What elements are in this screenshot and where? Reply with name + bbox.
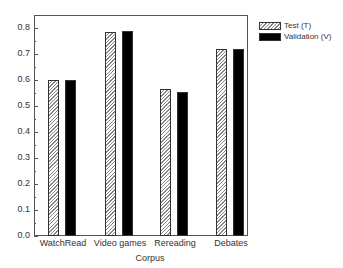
bar-validation — [122, 31, 133, 236]
y-tick — [34, 28, 38, 29]
y-tick-label: 0.0 — [0, 230, 30, 240]
legend-swatch-solid — [259, 33, 281, 41]
legend-label: Validation (V) — [284, 32, 331, 41]
legend-item-validation: Validation (V) — [259, 31, 331, 42]
y-tick — [34, 132, 38, 133]
y-tick-label: 0.4 — [0, 126, 30, 136]
y-tick-label: 0.2 — [0, 178, 30, 188]
y-minor-tick — [34, 119, 36, 120]
y-tick-label: 0.5 — [0, 100, 30, 110]
x-tick-label: Debates — [196, 238, 266, 248]
y-minor-tick — [34, 93, 36, 94]
bar-test — [105, 32, 116, 236]
y-minor-tick — [34, 197, 36, 198]
y-tick — [34, 80, 38, 81]
y-tick — [34, 106, 38, 107]
bar-test — [48, 80, 59, 236]
bar-validation — [233, 49, 244, 236]
y-tick — [34, 236, 38, 237]
y-tick-label: 0.7 — [0, 48, 30, 58]
y-tick-label: 0.8 — [0, 22, 30, 32]
bar-test — [216, 49, 227, 236]
y-minor-tick — [34, 15, 36, 16]
legend-item-test: Test (T) — [259, 20, 331, 31]
y-tick-label: 0.6 — [0, 74, 30, 84]
legend-label: Test (T) — [284, 21, 311, 30]
y-tick — [34, 210, 38, 211]
legend-swatch-hatched — [259, 22, 281, 30]
y-minor-tick — [34, 223, 36, 224]
y-tick-label: 0.1 — [0, 204, 30, 214]
y-minor-tick — [34, 171, 36, 172]
bar-test — [160, 89, 171, 236]
y-tick — [34, 184, 38, 185]
bar-validation — [65, 80, 76, 236]
bar-validation — [177, 92, 188, 236]
y-minor-tick — [34, 145, 36, 146]
legend: Test (T) Validation (V) — [259, 20, 331, 42]
y-tick-label: 0.3 — [0, 152, 30, 162]
x-axis-title: Corpus — [120, 253, 180, 263]
chart-root: Corpus Test (T) Validation (V) 0.00.10.2… — [0, 0, 343, 268]
y-minor-tick — [34, 41, 36, 42]
y-tick — [34, 54, 38, 55]
y-minor-tick — [34, 67, 36, 68]
y-tick — [34, 158, 38, 159]
